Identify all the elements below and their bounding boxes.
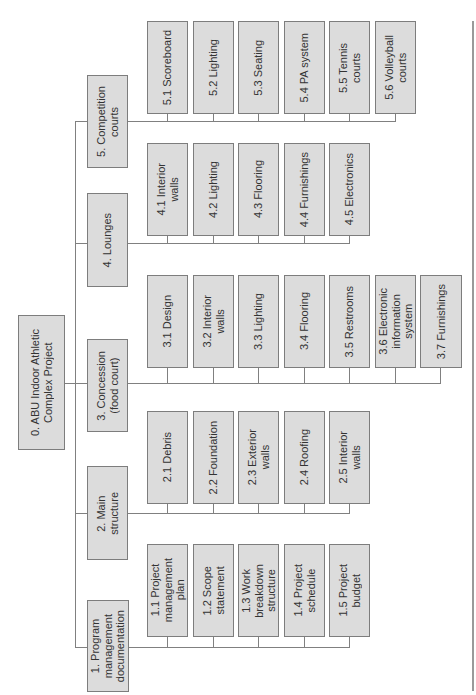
branch-node-4-label: 4. Lounges [101, 213, 114, 267]
leaf-3-2: 3.2 Interior walls [193, 275, 234, 368]
tick [167, 368, 168, 383]
tick [213, 368, 214, 383]
tick [167, 504, 168, 513]
branch-3-child-bus [128, 383, 441, 384]
leaf-1-4: 1.4 Project schedule [284, 544, 325, 637]
leaf-4-4: 4.4 Furnishings [284, 143, 325, 236]
tick [167, 236, 168, 243]
tick [258, 637, 259, 647]
branch-4-child-bus [128, 243, 320, 244]
leaf-label: 4.4 Furnishings [298, 152, 311, 227]
tick [304, 637, 305, 647]
tick [304, 114, 305, 121]
leaf-3-6: 3.6 Electronic information system [375, 275, 416, 368]
tick [258, 368, 259, 383]
page-border [472, 21, 474, 691]
leaf-label: 3.4 Flooring [298, 292, 311, 350]
branch-node-5: 5. Competition courts [87, 75, 128, 168]
leaf-1-1: 1.1 Project management plan [147, 544, 188, 637]
tick [258, 504, 259, 513]
leaf-2-2: 2.2 Foundation [193, 411, 234, 504]
branch-5-connector [75, 121, 87, 122]
leaf-3-4: 3.4 Flooring [284, 275, 325, 368]
leaf-label: 4.3 Flooring [252, 160, 265, 218]
branch-node-3: 3. Concession (food court) [87, 339, 128, 432]
leaf-label: 3.7 Furnishings [435, 284, 448, 359]
leaf-label: 1.2 Scope statement [201, 566, 226, 616]
tick [258, 114, 259, 121]
tick [213, 236, 214, 243]
leaf-label: 5.1 Scoreboard [161, 30, 174, 105]
leaf-4-5: 4.5 Electronics [329, 143, 370, 236]
leaf-5-4: 5.4 PA system [284, 21, 325, 114]
branch-1-connector [75, 647, 87, 648]
leaf-label: 2.1 Debris [161, 432, 174, 482]
leaf-3-3: 3.3 Lighting [238, 275, 279, 368]
leaf-2-5: 2.5 Interior walls [329, 411, 370, 504]
tick [213, 504, 214, 513]
leaf-1-5: 1.5 Project budget [329, 544, 370, 637]
leaf-label: 5.5 Tennis courts [337, 43, 362, 93]
leaf-5-2: 5.2 Lighting [193, 21, 234, 114]
leaf-2-1: 2.1 Debris [147, 411, 188, 504]
bus-extend [320, 513, 350, 514]
leaf-label: 1.3 Work breakdown structure [240, 564, 278, 618]
leaf-4-3: 4.3 Flooring [238, 143, 279, 236]
bus-extend [366, 121, 396, 122]
branch-node-1-label: 1. Program management documentation [89, 610, 127, 682]
branch-1-child-bus [129, 647, 320, 648]
branch-3-connector [75, 383, 87, 384]
leaf-label: 4.1 Interior walls [155, 163, 180, 216]
root-connector [65, 383, 75, 384]
tick [349, 236, 350, 243]
leaf-label: 5.4 PA system [298, 33, 311, 103]
leaf-3-5: 3.5 Restrooms [329, 275, 370, 368]
tick [304, 368, 305, 383]
tick [349, 114, 350, 121]
leaf-label: 1.5 Project budget [337, 564, 362, 617]
tick [213, 637, 214, 647]
branch-node-5-label: 5. Competition courts [95, 86, 120, 157]
leaf-2-4: 2.4 Roofing [284, 411, 325, 504]
tick [349, 368, 350, 383]
leaf-label: 3.5 Restrooms [343, 286, 356, 358]
leaf-5-3: 5.3 Seating [238, 21, 279, 114]
tick [213, 114, 214, 121]
branch-2-connector [75, 513, 87, 514]
root-node: 0. ABU Indoor Athletic Complex Project [18, 315, 65, 450]
leaf-label: 5.6 Volleyball courts [383, 35, 408, 100]
leaf-3-7: 3.7 Furnishings [420, 275, 462, 368]
branch-node-2-label: 2. Main structure [95, 492, 120, 535]
leaf-label: 3.6 Electronic information system [377, 288, 415, 355]
leaf-label: 3.3 Lighting [252, 293, 265, 350]
leaf-2-3: 2.3 Exterior walls [238, 411, 279, 504]
spine-line [75, 121, 76, 648]
tick [167, 114, 168, 121]
leaf-4-2: 4.2 Lighting [193, 143, 234, 236]
branch-node-4: 4. Lounges [87, 193, 128, 287]
branch-node-2: 2. Main structure [87, 466, 128, 560]
tick [440, 368, 441, 383]
tick [258, 236, 259, 243]
branch-node-1: 1. Program management documentation [87, 600, 129, 692]
tick [304, 236, 305, 243]
leaf-5-5: 5.5 Tennis courts [329, 21, 370, 114]
leaf-label: 4.2 Lighting [207, 161, 220, 218]
tick [349, 504, 350, 513]
leaf-1-2: 1.2 Scope statement [193, 544, 234, 637]
bus-extend [320, 243, 350, 244]
leaf-5-1: 5.1 Scoreboard [147, 21, 188, 114]
leaf-label: 2.5 Interior walls [337, 431, 362, 484]
tick [395, 368, 396, 383]
tick [167, 637, 168, 647]
leaf-3-1: 3.1 Design [147, 275, 188, 368]
leaf-label: 5.3 Seating [252, 40, 265, 96]
leaf-1-3: 1.3 Work breakdown structure [238, 544, 279, 637]
bus-extend [320, 647, 350, 648]
leaf-label: 1.4 Project schedule [292, 564, 317, 617]
leaf-label: 5.2 Lighting [207, 39, 220, 96]
tick [395, 114, 396, 121]
leaf-label: 2.3 Exterior walls [246, 429, 271, 485]
branch-5-child-bus [128, 121, 366, 122]
tick [304, 504, 305, 513]
